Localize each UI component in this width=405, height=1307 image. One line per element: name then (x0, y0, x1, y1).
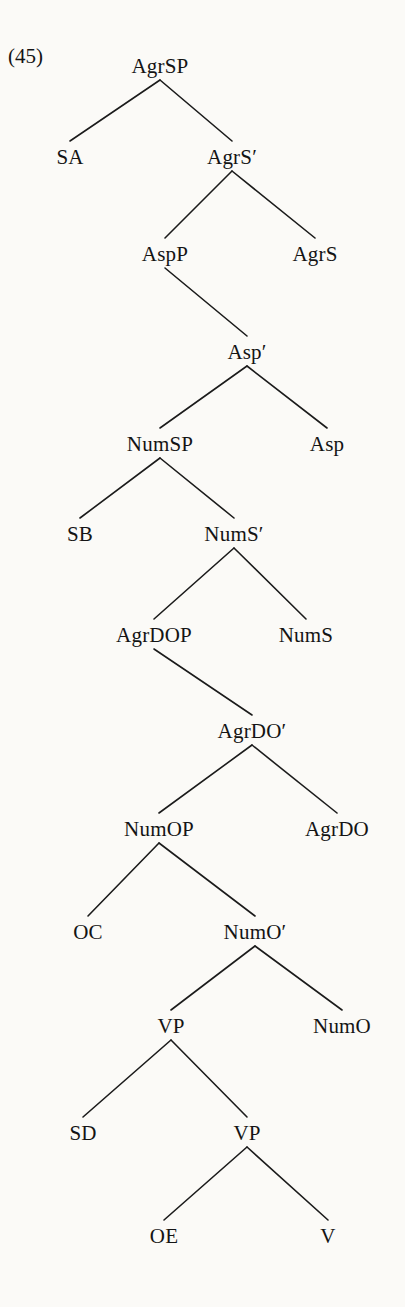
tree-node-aspbar: Asp′ (227, 342, 266, 363)
branch-agrsp-to-agrsbar (160, 80, 232, 141)
tree-node-agrdop: AgrDOP (116, 625, 192, 646)
tree-node-numsp: NumSP (127, 434, 193, 455)
tree-node-numop: NumOP (124, 819, 194, 840)
branch-aspbar-to-asp (247, 366, 327, 428)
branch-agrdop-to-agrdobar (154, 649, 252, 715)
tree-node-sb: SB (67, 524, 93, 545)
tree-node-agrsbar: AgrS′ (207, 147, 257, 168)
tree-node-numsbar: NumS′ (204, 524, 263, 545)
example-number: (45) (8, 46, 43, 67)
tree-node-sd: SD (69, 1123, 96, 1144)
branch-agrdobar-to-agrdo (252, 745, 337, 813)
branch-numsp-to-numsbar (160, 458, 234, 518)
branch-numsp-to-sb (80, 458, 160, 518)
tree-node-nums: NumS (279, 625, 333, 646)
branch-aspp-to-aspbar (165, 268, 247, 336)
branch-agrdobar-to-numop (159, 745, 252, 813)
tree-node-vp1: VP (157, 1016, 184, 1037)
tree-branch-lines (0, 0, 405, 1307)
tree-node-agrdobar: AgrDO′ (218, 721, 287, 742)
branch-agrsbar-to-aspp (165, 171, 232, 238)
branch-numsbar-to-agrdop (154, 548, 234, 619)
branch-vp2-to-oe (164, 1147, 247, 1220)
branch-numsbar-to-nums (234, 548, 306, 619)
branch-vp1-to-vp2 (171, 1040, 247, 1117)
tree-node-agrs: AgrS (292, 244, 337, 265)
branch-numobar-to-numo (255, 946, 342, 1010)
branch-vp1-to-sd (83, 1040, 171, 1117)
tree-node-v: V (320, 1226, 335, 1247)
branch-numobar-to-vp1 (171, 946, 255, 1010)
branch-agrsp-to-sa (70, 80, 160, 141)
tree-node-oc: OC (73, 922, 103, 943)
branch-numop-to-numobar (159, 843, 255, 916)
tree-node-aspp: AspP (142, 244, 188, 265)
tree-node-numo: NumO (313, 1016, 371, 1037)
branch-aspbar-to-numsp (160, 366, 247, 428)
branch-numop-to-oc (88, 843, 159, 916)
branch-vp2-to-v (247, 1147, 328, 1220)
tree-node-vp2: VP (233, 1123, 260, 1144)
branch-agrsbar-to-agrs (232, 171, 315, 238)
tree-node-asp: Asp (310, 434, 344, 455)
tree-node-sa: SA (56, 147, 83, 168)
tree-node-agrdo: AgrDO (305, 819, 369, 840)
tree-node-agrsp: AgrSP (131, 56, 188, 77)
syntactic-tree-figure: (45) AgrSPSAAgrS′AspPAgrSAsp′NumSPAspSBN… (0, 0, 405, 1307)
tree-node-numobar: NumO′ (224, 922, 287, 943)
tree-node-oe: OE (150, 1226, 178, 1247)
